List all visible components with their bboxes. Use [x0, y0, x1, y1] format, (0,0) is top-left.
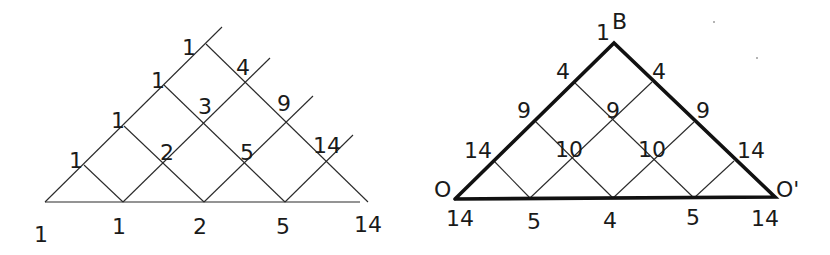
right-label-base-4: 4	[603, 208, 617, 233]
left-label-base-2: 2	[193, 214, 207, 239]
right-triangle: 1 B O O' 4 9 14 4 9 14 9 10 10 14 5 4 5 …	[434, 9, 799, 234]
speck-dot	[713, 21, 715, 23]
right-label-left-9: 9	[517, 98, 531, 123]
right-inner-down-2	[494, 161, 530, 198]
right-label-center-9: 9	[606, 98, 620, 123]
right-label-vertex-o-prime: O'	[776, 177, 799, 202]
right-label-base-5a: 5	[527, 209, 541, 234]
left-label-mid-5: 5	[240, 140, 254, 165]
right-label-base-5b: 5	[686, 205, 700, 230]
left-diag-up-2	[204, 96, 313, 202]
right-label-mid-10a: 10	[555, 137, 583, 162]
left-label-right-9: 9	[277, 91, 291, 116]
left-label-edge-2: 1	[111, 108, 125, 133]
right-label-apex-letter: B	[612, 9, 627, 34]
left-diag-down-0	[206, 44, 368, 202]
left-lattice: 1 1 2 5 14 1 1 1 1 2 3 5 4 9 14	[34, 27, 382, 247]
left-diag-down-3	[84, 165, 123, 202]
right-label-right-4: 4	[652, 59, 666, 84]
speck-dot	[756, 57, 758, 59]
right-label-base-14a: 14	[446, 206, 474, 231]
left-label-right-14: 14	[313, 133, 341, 158]
left-label-right-4: 4	[236, 55, 250, 80]
right-label-base-14b: 14	[751, 206, 779, 231]
left-label-base-3: 5	[276, 214, 290, 239]
diagram-canvas: 1 1 2 5 14 1 1 1 1 2 3 5 4 9 14 1 B O O'…	[0, 0, 830, 255]
right-label-left-4: 4	[556, 59, 570, 84]
right-label-right-14: 14	[737, 138, 765, 163]
right-inner-up-2	[694, 161, 734, 198]
left-label-mid-3: 3	[198, 94, 212, 119]
right-label-apex-count: 1	[596, 20, 610, 45]
right-label-vertex-o: O	[434, 177, 451, 202]
right-label-right-9: 9	[696, 98, 710, 123]
left-label-base-0: 1	[34, 222, 48, 247]
left-label-base-4: 14	[354, 212, 382, 237]
left-label-apex: 1	[182, 35, 196, 60]
left-label-base-1: 1	[112, 214, 126, 239]
left-label-edge-3: 1	[151, 68, 165, 93]
right-label-mid-10b: 10	[638, 137, 666, 162]
left-label-edge-1: 1	[69, 148, 83, 173]
right-label-left-14: 14	[464, 138, 492, 163]
left-label-mid-2: 2	[160, 140, 174, 165]
